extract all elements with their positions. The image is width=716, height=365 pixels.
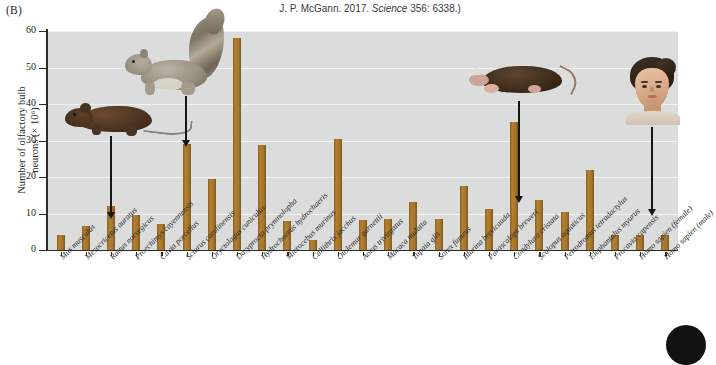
- x-axis-tick: [615, 252, 616, 256]
- x-axis-tick: [363, 252, 364, 256]
- x-axis-tick: [111, 252, 112, 256]
- x-axis-tick: [338, 252, 339, 256]
- x-axis-tick: [590, 252, 591, 256]
- x-axis-tick-label: Homo sapien (male): [662, 208, 715, 261]
- x-axis-tick: [464, 252, 465, 256]
- x-axis-tick: [313, 252, 314, 256]
- x-axis-tick: [388, 252, 389, 256]
- x-axis-tick: [86, 252, 87, 256]
- x-axis-tick: [565, 252, 566, 256]
- x-axis-tick: [439, 252, 440, 256]
- page-corner-marker: [666, 325, 706, 365]
- x-axis-tick: [262, 252, 263, 256]
- x-axis-tick: [136, 252, 137, 256]
- x-axis-tick: [640, 252, 641, 256]
- x-axis-tick: [161, 252, 162, 256]
- x-axis-tick: [212, 252, 213, 256]
- x-axis-tick: [187, 252, 188, 256]
- x-axis-tick: [237, 252, 238, 256]
- x-axis-tick: [514, 252, 515, 256]
- x-axis-tick: [489, 252, 490, 256]
- x-axis-tick: [287, 252, 288, 256]
- x-axis-tick: [413, 252, 414, 256]
- x-axis-tick: [665, 252, 666, 256]
- x-axis-tick: [539, 252, 540, 256]
- x-axis-tick: [61, 252, 62, 256]
